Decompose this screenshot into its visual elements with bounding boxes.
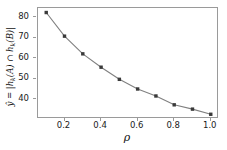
data-point-marker: [63, 34, 66, 37]
x-tick-mark: [100, 118, 101, 121]
x-tick-mark: [64, 118, 65, 121]
data-point-marker: [45, 11, 48, 14]
data-point-marker: [154, 94, 157, 97]
x-tick-mark: [137, 118, 138, 121]
y-axis-title-mid: (A) ∩ h: [5, 46, 15, 77]
data-point-marker: [191, 107, 194, 110]
y-axis-title: ŷ = |hk(A) ∩ hk(B)|: [6, 7, 15, 127]
data-point-marker: [209, 113, 212, 116]
y-tick-mark: [33, 98, 36, 99]
y-axis-title-sub-k2: k: [9, 43, 16, 47]
x-tick-mark: [210, 118, 211, 121]
data-point-marker: [81, 52, 84, 55]
data-point-marker: [173, 103, 176, 106]
data-point-marker: [136, 87, 139, 90]
series-canvas: [38, 8, 219, 119]
y-tick-label: 70: [18, 32, 29, 41]
chart-figure: 4050607080 ρ ŷ = |hk(A) ∩ hk(B)| 0.20.40…: [0, 0, 227, 150]
data-point-marker: [118, 78, 121, 81]
x-tick-label: 1.0: [203, 121, 217, 130]
x-tick-mark: [173, 118, 174, 121]
x-tick-label: 0.2: [57, 121, 71, 130]
data-point-marker: [99, 66, 102, 69]
y-tick-mark: [33, 57, 36, 58]
y-tick-label: 80: [18, 12, 29, 21]
x-tick-label: 0.4: [93, 121, 107, 130]
x-tick-label: 0.8: [166, 121, 180, 130]
y-tick-label: 40: [18, 94, 29, 103]
y-tick-mark: [33, 16, 36, 17]
y-axis-title-lead: ŷ = |h: [5, 81, 15, 107]
y-tick-label: 50: [18, 73, 29, 82]
x-axis-title-text: ρ: [124, 131, 130, 144]
y-axis-title-tail: (B)|: [5, 27, 15, 43]
y-axis-title-sub-k1: k: [9, 77, 16, 81]
y-tick-label: 60: [18, 53, 29, 62]
y-tick-mark: [33, 37, 36, 38]
x-tick-label: 0.6: [130, 121, 144, 130]
plot-area: [37, 7, 218, 118]
y-tick-mark: [33, 78, 36, 79]
x-axis-title: ρ: [124, 132, 130, 143]
series-line: [46, 13, 211, 115]
